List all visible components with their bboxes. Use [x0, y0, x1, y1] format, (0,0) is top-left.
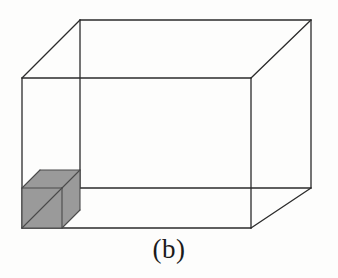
shaded-unit-cube — [22, 170, 80, 228]
figure-container: (b) — [0, 0, 338, 278]
figure-caption: (b) — [0, 232, 338, 266]
